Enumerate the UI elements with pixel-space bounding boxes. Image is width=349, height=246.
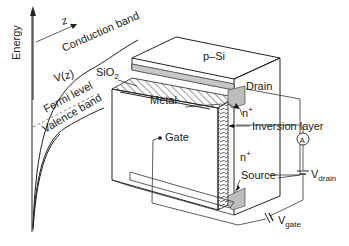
potential-label: V(z): [52, 67, 75, 84]
substrate-label: p–Si: [203, 50, 225, 62]
conduction-band-label: Conduction band: [60, 9, 141, 54]
energy-axis-label: Energy: [10, 25, 22, 60]
mosfet-diagram: Energy z Conduction band V(z) Fermi leve…: [0, 0, 349, 246]
oxide-label: SiO2: [96, 66, 119, 81]
energy-band-diagram: Energy z Conduction band V(z) Fermi leve…: [10, 6, 141, 232]
vgate-label: Vgate: [278, 214, 301, 229]
energy-arrow-icon: [30, 6, 36, 16]
drain-wire: [246, 89, 300, 178]
drain-label: Drain: [246, 80, 272, 92]
mosfet-device: A p–Si SiO2 Metal Gate Drain n+ Inversio…: [96, 37, 336, 229]
z-label: z: [59, 14, 70, 28]
conduction-band-curve: [33, 40, 138, 228]
source-label: Source: [241, 169, 276, 181]
vdrain-label: Vdrain: [311, 168, 336, 183]
ammeter-label: A: [300, 136, 306, 145]
inversion-layer-label: Inversion layer: [252, 120, 324, 132]
metal-label: Metal: [150, 94, 177, 106]
gate-label: Gate: [165, 131, 189, 143]
n-plus-top-label: n+: [242, 105, 253, 119]
inversion-layer-strip: [218, 102, 228, 210]
n-plus-bottom-label: n+: [240, 149, 251, 163]
